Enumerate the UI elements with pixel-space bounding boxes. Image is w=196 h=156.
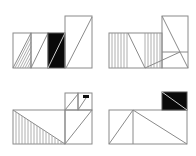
panel-top-left [13,16,92,68]
diagram-figure [0,0,196,156]
black-box [162,92,187,110]
hatched-box [13,33,31,68]
vertical-hatching-right [145,33,160,68]
small-black-mark [83,95,89,98]
black-box [48,33,65,68]
panel-bottom-right [109,92,187,144]
diagonal-box [31,33,48,68]
panel-bottom-left [13,93,92,144]
panel-top-right [109,16,188,68]
tall-box [65,16,92,68]
vertical-hatching-left [112,33,127,68]
